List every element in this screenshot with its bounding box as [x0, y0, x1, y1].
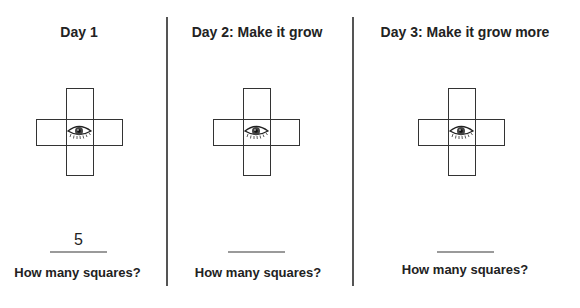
cross-figure: [36, 88, 123, 176]
square-bottom: [243, 145, 271, 176]
panel-title: Day 1: [0, 24, 158, 40]
panel-title: Day 2: Make it grow: [170, 24, 344, 40]
eye-icon: [449, 123, 475, 141]
square-right: [270, 119, 300, 146]
divider: [166, 17, 168, 286]
square-bottom: [66, 145, 94, 176]
answer-line: [50, 251, 107, 253]
question-label: How many squares?: [178, 265, 338, 280]
cross-figure: [418, 88, 505, 176]
answer-line[interactable]: [437, 251, 494, 253]
eye-icon: [67, 123, 93, 141]
square-top: [448, 88, 476, 120]
answer-line[interactable]: [228, 251, 285, 253]
square-top: [66, 88, 94, 120]
square-right: [475, 119, 505, 146]
cross-figure: [213, 88, 300, 176]
question-label: How many squares?: [385, 262, 545, 277]
square-left: [418, 119, 449, 146]
divider: [352, 17, 354, 286]
square-bottom: [448, 145, 476, 176]
square-right: [93, 119, 123, 146]
answer-value[interactable]: 5: [50, 231, 107, 249]
question-label: How many squares?: [0, 265, 155, 280]
panel-title: Day 3: Make it grow more: [356, 24, 574, 40]
square-left: [36, 119, 67, 146]
square-top: [243, 88, 271, 120]
eye-icon: [244, 123, 270, 141]
square-left: [213, 119, 244, 146]
